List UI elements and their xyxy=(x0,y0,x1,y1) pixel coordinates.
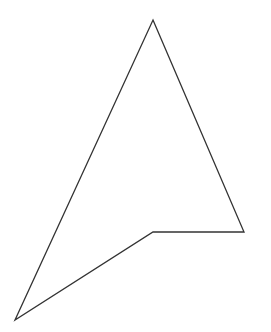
diagram-canvas xyxy=(0,0,271,332)
arrowhead-polygon xyxy=(15,20,244,320)
